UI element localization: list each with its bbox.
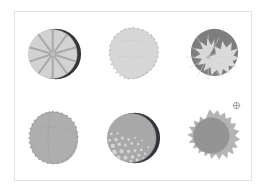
figure-cell-1[interactable]: spoked-disc-with-dark-crescent [15, 12, 94, 96]
figure-grid: spoked-disc-with-dark-crescent [15, 12, 251, 180]
figure-6-label: spiky-halo-disc [172, 180, 173, 181]
figure-1-spoked-disc-with-dark-crescent [15, 12, 94, 96]
figure-cell-4[interactable]: scalloped-oval-blob [15, 96, 94, 180]
figure-cell-3[interactable]: starburst-over-dark-disc [172, 12, 251, 96]
figure-3-starburst-over-dark-disc [172, 12, 251, 96]
figure-panel: spoked-disc-with-dark-crescent [14, 11, 252, 181]
figure-4-label: scalloped-oval-blob [15, 180, 16, 181]
figure-cell-5[interactable]: vacuolated-disc-with-crescent [94, 96, 173, 180]
crosshair-target-marker[interactable] [232, 101, 241, 110]
figure-2-stippled-polygon-blob [94, 12, 173, 96]
crosshair-icon [232, 101, 241, 110]
screenshot-root: spoked-disc-with-dark-crescent [0, 0, 266, 195]
figure-5-vacuolated-disc-with-crescent [94, 96, 173, 180]
figure-cell-2[interactable]: stippled-polygon-blob [94, 12, 173, 96]
figure-4-scalloped-oval-blob [15, 96, 94, 180]
figure-5-label: vacuolated-disc-with-crescent [94, 180, 95, 181]
